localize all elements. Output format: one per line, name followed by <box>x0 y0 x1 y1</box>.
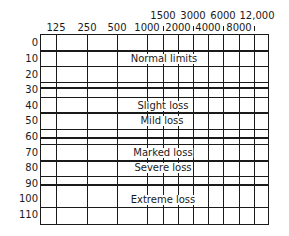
y-label-30: 30 <box>4 85 38 95</box>
x-label-250: 250 <box>77 23 96 33</box>
band-label-mild: Mild loss <box>139 116 184 126</box>
y-label-100: 100 <box>4 194 38 204</box>
band-boundary-normal-top <box>40 50 269 52</box>
band-label-slight: Slight loss <box>136 101 189 111</box>
x-label-3000: 3000 <box>180 11 205 21</box>
grid-line-db-55a <box>40 129 269 130</box>
x-label-1000: 1000 <box>134 23 159 33</box>
grid-line-db-85 <box>40 176 269 177</box>
band-boundary-mild <box>40 112 269 114</box>
x-label-6000: 6000 <box>210 11 235 21</box>
x-label-125: 125 <box>46 23 65 33</box>
grid-line-db-35 <box>40 97 269 98</box>
y-label-60: 60 <box>4 132 38 142</box>
y-label-110: 110 <box>4 210 38 220</box>
band-boundary-extreme <box>40 184 269 186</box>
x-label-12000: 12,000 <box>240 11 275 21</box>
y-label-80: 80 <box>4 163 38 173</box>
grid-line-db-65 <box>40 144 269 145</box>
band-label-extreme: Extreme loss <box>130 195 197 205</box>
grid-line-db-25a <box>40 82 269 83</box>
y-label-0: 0 <box>4 38 38 48</box>
band-label-normal: Normal limits <box>130 54 199 64</box>
tick-4000 <box>223 26 224 31</box>
x-label-1500: 1500 <box>150 11 175 21</box>
y-label-40: 40 <box>4 101 38 111</box>
grid-line-db-15 <box>40 66 269 67</box>
y-label-10: 10 <box>4 54 38 64</box>
x-label-500: 500 <box>107 23 126 33</box>
tick-1000 <box>163 26 164 31</box>
x-label-8000: 8000 <box>226 23 251 33</box>
y-label-20: 20 <box>4 70 38 80</box>
band-boundary-slight <box>40 87 269 89</box>
x-label-2000: 2000 <box>165 23 190 33</box>
audiogram-chart: 0 10 20 30 40 50 60 70 80 90 100 110 125… <box>0 0 289 236</box>
y-label-90: 90 <box>4 179 38 189</box>
band-label-marked: Marked loss <box>132 148 193 158</box>
grid-line-db-105 <box>40 207 269 208</box>
y-label-70: 70 <box>4 148 38 158</box>
tick-2000 <box>193 26 194 31</box>
x-label-4000: 4000 <box>195 23 220 33</box>
tick-8000 <box>254 26 255 31</box>
band-label-severe: Severe loss <box>133 163 192 173</box>
band-boundary-marked <box>40 137 269 139</box>
y-label-50: 50 <box>4 116 38 126</box>
